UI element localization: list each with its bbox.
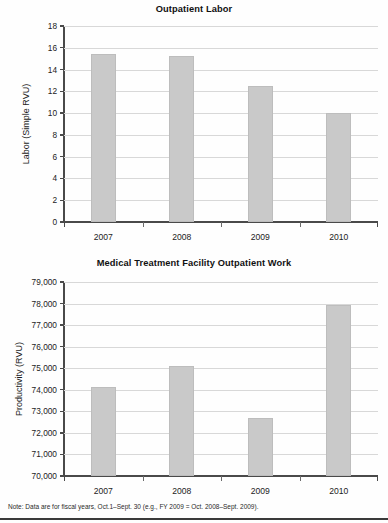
y-axis-tick [60,112,64,113]
y-axis-tick-label: 72,000 [32,428,57,438]
y-axis-tick-label: 73,000 [32,406,57,416]
y-axis-tick-label: 0 [52,217,57,227]
x-axis-tick-edge [64,476,65,481]
x-axis-tick [221,476,222,481]
bar-2008 [169,366,194,476]
y-axis-tick [60,432,64,433]
x-axis-label-2010: 2010 [329,486,348,496]
y-axis-tick [60,346,64,347]
x-axis-tick-edge [377,222,378,227]
x-axis-tick [300,222,301,227]
y-axis-tick-label: 74,000 [32,385,57,395]
y-axis-line-top [63,26,65,222]
chart-title-outpatient-labor: Outpatient Labor [0,4,388,14]
bar-2007 [91,54,116,222]
y-axis-tick-label: 12 [48,86,57,96]
y-axis-tick-label: 14 [48,65,57,75]
y-axis-tick [60,69,64,70]
y-axis-tick [60,25,64,26]
bar-2007 [91,387,116,476]
x-axis-label-2009: 2009 [251,232,270,242]
y-axis-tick [60,91,64,92]
x-axis-tick [300,476,301,481]
y-axis-tick [60,47,64,48]
bar-2009 [248,86,273,222]
y-axis-title-top: Labor (Simple RVU) [21,84,31,164]
x-axis-label-2007: 2007 [94,232,113,242]
y-axis-tick [60,324,64,325]
y-axis-tick-label: 4 [52,173,57,183]
y-axis-tick [60,389,64,390]
bar-2008 [169,56,194,222]
x-axis-tick-edge [64,222,65,227]
chart-mtf-outpatient-work: Medical Treatment Facility Outpatient Wo… [0,252,388,500]
y-axis-tick [60,134,64,135]
y-axis-tick [60,200,64,201]
y-axis-tick-label: 8 [52,130,57,140]
figure-footnote: Note: Data are for fiscal years, Oct.1–S… [8,503,258,510]
y-axis-tick-label: 76,000 [32,342,57,352]
y-axis-tick [60,281,64,282]
y-axis-tick-label: 71,000 [32,449,57,459]
y-axis-tick-label: 10 [48,108,57,118]
bottom-divider [0,518,388,520]
x-axis-tick [143,476,144,481]
bar-2010 [326,113,351,222]
x-axis-label-2010: 2010 [329,232,348,242]
bar-2010 [326,305,351,476]
plot-area-mtf-outpatient-work: Productivity (RVU) 70,00071,00072,00073,… [64,282,378,476]
bar-2009 [248,418,273,476]
y-axis-tick-label: 18 [48,21,57,31]
y-axis-tick-label: 78,000 [32,299,57,309]
gridline [64,48,378,49]
figure-page: Outpatient Labor Labor (Simple RVU) 0246… [0,0,388,523]
plot-area-outpatient-labor: Labor (Simple RVU) 024681012141618 20072… [64,26,378,222]
y-axis-tick [60,454,64,455]
y-axis-tick-label: 16 [48,43,57,53]
x-axis-tick [221,222,222,227]
y-axis-tick [60,368,64,369]
x-axis-tick [143,222,144,227]
y-axis-tick-label: 2 [52,195,57,205]
y-axis-tick-label: 70,000 [32,471,57,481]
y-axis-tick [60,303,64,304]
gridline [64,26,378,27]
y-axis-tick-label: 6 [52,152,57,162]
chart-outpatient-labor: Outpatient Labor Labor (Simple RVU) 0246… [0,0,388,252]
y-axis-tick-label: 77,000 [32,320,57,330]
y-axis-tick-label: 75,000 [32,363,57,373]
y-axis-tick [60,178,64,179]
gridline [64,282,378,283]
x-axis-label-2008: 2008 [172,486,191,496]
y-axis-title-bottom: Productivity (RVU) [14,342,24,416]
y-axis-line-bottom [63,282,65,476]
y-axis-tick [60,156,64,157]
x-axis-label-2009: 2009 [251,486,270,496]
x-axis-tick-edge [377,476,378,481]
y-axis-tick [60,411,64,412]
x-axis-label-2008: 2008 [172,232,191,242]
x-axis-label-2007: 2007 [94,486,113,496]
chart-title-mtf-outpatient-work: Medical Treatment Facility Outpatient Wo… [0,258,388,268]
y-axis-tick-label: 79,000 [32,277,57,287]
